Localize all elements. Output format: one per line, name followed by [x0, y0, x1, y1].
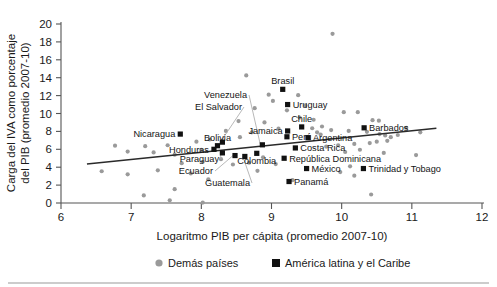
point-label-colombia: Colombia [237, 156, 277, 166]
data-point-other [238, 135, 242, 139]
data-point-lac [361, 166, 366, 171]
point-label-rep-blica-dominicana: República Dominicana [289, 154, 382, 164]
point-label-per-: Perú [292, 132, 311, 142]
x-tick-label: 7 [128, 211, 134, 223]
data-point-lac [285, 102, 290, 107]
point-label-paraguay: Paraguay [180, 154, 220, 164]
data-point-other [342, 110, 346, 114]
point-label-brasil: Brasil [271, 76, 294, 86]
x-tick-label: 12 [476, 211, 489, 223]
data-point-lac [254, 151, 259, 156]
data-point-lac [286, 179, 291, 184]
scatter-plot-canvas: 02468101214161820 6789101112 NicaraguaVe… [0, 0, 497, 287]
y-tick-label: 10 [39, 108, 52, 120]
data-point-other [142, 193, 146, 197]
x-axis-title: Logaritmo PIB per cápita (promedio 2007-… [157, 230, 388, 242]
data-point-other [382, 151, 386, 155]
data-point-other [414, 153, 418, 157]
y-tick-label: 4 [46, 161, 53, 173]
data-point-other [267, 93, 271, 97]
y-tick-label: 2 [46, 179, 52, 191]
data-point-other [231, 162, 235, 166]
data-point-other [320, 124, 324, 128]
data-point-other [389, 135, 393, 139]
data-point-other [126, 172, 130, 176]
data-point-other [352, 142, 356, 146]
y-tick-label: 0 [46, 197, 52, 209]
data-point-other [168, 198, 172, 202]
data-point-other [255, 169, 259, 173]
data-point-other [368, 141, 372, 145]
y-tick-label: 20 [39, 18, 52, 30]
data-point-other [352, 174, 356, 178]
data-point-other [396, 133, 400, 137]
data-point-other [152, 150, 156, 154]
data-point-lac [284, 134, 289, 139]
data-point-other [100, 169, 104, 173]
y-tick-label: 14 [39, 72, 52, 84]
data-point-other [126, 149, 130, 153]
legend-label-other-countries: Demás países [168, 257, 239, 269]
legend-marker-other-countries [155, 259, 162, 266]
data-point-other [356, 110, 360, 114]
data-point-other [358, 148, 362, 152]
data-point-other [173, 187, 177, 191]
point-label-nicaragua: Nicaragua [133, 129, 176, 139]
data-point-other [244, 73, 248, 77]
data-point-lac [299, 124, 304, 129]
data-point-other [375, 140, 379, 144]
data-point-lac [293, 145, 298, 150]
point-label-barbados: Barbados [369, 123, 409, 133]
y-axis-ticks: 02468101214161820 [39, 18, 61, 209]
data-point-other [285, 108, 289, 112]
legend-label-lac: América latina y el Caribe [285, 257, 410, 269]
y-tick-label: 18 [39, 36, 52, 48]
data-point-other [330, 32, 334, 36]
data-point-other [113, 144, 117, 148]
y-axis-title-line1: Carga del IVA como porcentaje [5, 34, 17, 192]
data-point-other [348, 164, 352, 168]
data-point-lac [220, 150, 225, 155]
point-label-costa-rica: Costa Rica [300, 143, 346, 153]
data-point-other [262, 120, 266, 124]
x-tick-label: 11 [406, 211, 418, 223]
data-point-other [201, 200, 205, 204]
y-tick-label: 12 [39, 90, 52, 102]
y-tick-label: 8 [46, 125, 52, 137]
point-label-panam-: Panamá [294, 177, 329, 187]
data-point-other [156, 168, 160, 172]
y-axis-title-line2: del PIB (promedio 2007-10) [19, 42, 31, 183]
data-point-lac [280, 87, 285, 92]
legend: Demás países América latina y el Caribe [155, 257, 410, 269]
data-point-lac [178, 131, 183, 136]
data-point-lac [282, 156, 287, 161]
point-label-venezuela: Venezuela [204, 90, 248, 100]
data-point-lac [304, 166, 309, 171]
data-point-other [296, 93, 300, 97]
point-label-bolivia: Bolivia [204, 133, 232, 143]
legend-marker-lac [272, 259, 280, 267]
data-point-other [194, 140, 198, 144]
leader-line [249, 95, 260, 145]
point-label-uruguay: Uruguay [293, 100, 328, 110]
data-point-other [329, 128, 333, 132]
point-label-el-salvador: El Salvador [195, 102, 242, 112]
x-tick-label: 8 [198, 211, 204, 223]
point-label-argentina: Argentina [313, 133, 353, 143]
data-point-lac [285, 128, 290, 133]
vat-burden-scatter-figure: 02468101214161820 6789101112 NicaraguaVe… [0, 0, 497, 287]
x-axis-ticks: 6789101112 [58, 203, 489, 223]
data-point-other [271, 99, 275, 103]
x-tick-label: 10 [335, 211, 348, 223]
data-point-other [143, 144, 147, 148]
y-tick-label: 16 [39, 54, 52, 66]
x-tick-label: 9 [268, 211, 274, 223]
point-label-ecuador: Ecuador [179, 166, 213, 176]
point-label-trinidad-y-tobago: Trinidad y Tobago [368, 164, 441, 174]
data-point-other [385, 139, 389, 143]
data-point-other [369, 192, 373, 196]
data-point-other [310, 126, 314, 130]
data-point-other [236, 119, 240, 123]
point-label-guatemala: Guatemala [205, 178, 251, 188]
data-point-lac [211, 147, 216, 152]
